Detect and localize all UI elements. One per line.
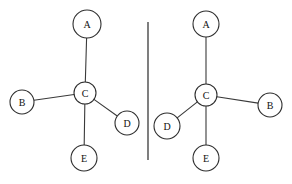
node-right-graph-c[interactable]: C (195, 84, 217, 106)
edge-left-graph-c-a (85, 38, 86, 82)
graph-diagram: ABCDEABCDE (0, 0, 292, 184)
node-right-graph-d[interactable]: D (154, 113, 180, 139)
edge-left-graph-c-d (94, 99, 117, 116)
diagram-canvas: ABCDEABCDE (0, 0, 292, 184)
node-label-e: E (203, 153, 209, 164)
node-left-graph-b[interactable]: B (10, 90, 34, 114)
node-label-a: A (83, 19, 91, 30)
node-right-graph-e[interactable]: E (193, 145, 219, 171)
node-left-graph-a[interactable]: A (73, 10, 101, 38)
node-label-c: C (203, 90, 210, 101)
node-label-b: B (267, 100, 274, 111)
node-label-d: D (123, 118, 130, 129)
node-right-graph-b[interactable]: B (258, 93, 282, 117)
edge-right-graph-c-b (217, 97, 258, 103)
node-label-b: B (19, 97, 26, 108)
edge-left-graph-c-e (84, 104, 85, 145)
node-right-graph-a[interactable]: A (193, 11, 219, 37)
node-left-graph-c[interactable]: C (74, 82, 96, 104)
node-label-a: A (202, 19, 210, 30)
edge-left-graph-c-b (34, 95, 74, 101)
node-label-e: E (81, 153, 87, 164)
nodes-layer: ABCDEABCDE (10, 10, 282, 171)
edge-right-graph-c-d (177, 102, 197, 118)
node-label-d: D (163, 121, 170, 132)
edges-layer (34, 37, 258, 145)
node-left-graph-e[interactable]: E (71, 145, 97, 171)
node-left-graph-d[interactable]: D (115, 111, 139, 135)
node-label-c: C (82, 88, 89, 99)
